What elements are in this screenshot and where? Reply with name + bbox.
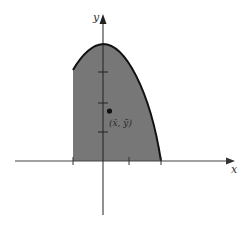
y-axis-label: y: [92, 11, 100, 24]
centroid-point: [107, 108, 112, 113]
y-axis-arrow-icon: [100, 14, 107, 24]
centroid-diagram: (x̄, ȳ) y x: [0, 0, 250, 228]
centroid-label: (x̄, ȳ): [109, 118, 132, 128]
x-axis-label: x: [231, 163, 238, 176]
